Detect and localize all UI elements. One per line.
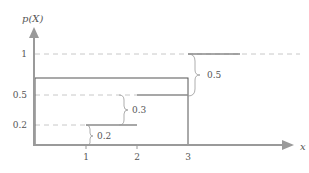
- jump-label: 0.2: [97, 131, 111, 141]
- x-tick-label: 2: [134, 152, 140, 162]
- y-tick-label: 0.2: [13, 120, 27, 130]
- cdf-rectangle: [35, 78, 188, 145]
- y-tick-label: 1: [21, 49, 27, 59]
- brace-icon: [86, 125, 93, 145]
- x-tick-label: 3: [185, 152, 191, 162]
- y-axis-label: p(X): [22, 13, 43, 24]
- y-tick-label: 0.5: [13, 90, 28, 100]
- x-tick-label: 1: [83, 152, 89, 162]
- jump-label: 0.3: [132, 105, 147, 115]
- y-axis-arrow-icon: [29, 27, 39, 38]
- x-axis-arrow-icon: [282, 140, 294, 150]
- brace-icon: [119, 95, 128, 125]
- cdf-step-chart: 0.2 0.3 0.5 1 2 3 0.2 0.5 1 p(X) x: [0, 0, 309, 173]
- jump-label: 0.5: [207, 70, 222, 80]
- brace-icon: [188, 54, 200, 96]
- x-axis-label: x: [300, 141, 306, 152]
